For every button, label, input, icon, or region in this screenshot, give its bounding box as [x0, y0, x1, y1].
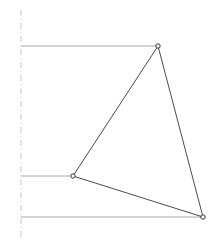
vertex-mid-left	[71, 174, 75, 178]
triangle-group	[73, 46, 203, 217]
projection-lines-group	[21, 46, 203, 217]
line-drawing-svg	[0, 0, 219, 246]
vertex-markers-group	[71, 44, 205, 219]
vertex-apex	[156, 44, 160, 48]
drawing-canvas	[0, 0, 219, 246]
vertex-bottom-right	[201, 215, 205, 219]
triangle-polygon	[73, 46, 203, 217]
